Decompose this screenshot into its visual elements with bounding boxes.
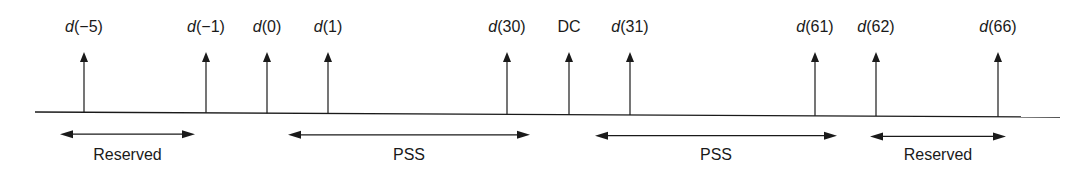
symbol-d: d — [488, 18, 497, 35]
reserved-span-label: Reserved — [93, 146, 161, 164]
subcarrier-index: (62) — [866, 18, 894, 35]
span-double-arrow — [288, 131, 530, 139]
subcarrier-arrow — [994, 52, 1002, 117]
span-double-arrow — [870, 132, 1006, 140]
arrowhead-icon — [811, 52, 819, 62]
subcarrier-arrow — [80, 52, 88, 112]
arrowhead-icon — [994, 52, 1002, 62]
span-double-arrow — [595, 132, 837, 140]
dc-subcarrier-arrow — [565, 52, 573, 115]
subcarrier-arrow — [324, 52, 332, 113]
subcarrier-index: (66) — [988, 18, 1016, 35]
subcarrier-arrow — [626, 52, 634, 115]
subcarrier-label: d(61) — [796, 18, 833, 36]
symbol-d: d — [253, 18, 262, 35]
subcarrier-label: d(30) — [488, 18, 525, 36]
pss-span-label: PSS — [393, 146, 425, 164]
subcarrier-index: (61) — [805, 18, 833, 35]
arrowhead-icon — [872, 52, 880, 62]
symbol-d: d — [796, 18, 805, 35]
symbol-d: d — [611, 18, 620, 35]
subcarrier-arrow — [202, 52, 210, 113]
arrowhead-icon — [626, 52, 634, 62]
subcarrier-label: d(−5) — [65, 18, 103, 36]
subcarrier-index: (1) — [323, 18, 343, 35]
subcarrier-index: (31) — [620, 18, 648, 35]
arrowhead-icon — [202, 52, 210, 62]
arrowhead-icon — [565, 52, 573, 62]
subcarrier-index: DC — [557, 18, 580, 35]
arrowhead-icon — [80, 52, 88, 62]
arrowhead-icon — [263, 52, 271, 62]
frequency-axis — [35, 112, 1060, 117]
arrowhead-icon — [503, 52, 511, 62]
subcarrier-arrow — [811, 52, 819, 116]
subcarrier-label: d(−1) — [187, 18, 225, 36]
subcarrier-arrow — [872, 52, 880, 116]
subcarrier-label: d(62) — [857, 18, 894, 36]
span-double-arrow — [60, 130, 195, 138]
subcarrier-label: d(66) — [979, 18, 1016, 36]
subcarrier-label: d(0) — [253, 18, 281, 36]
subcarrier-label: d(1) — [314, 18, 342, 36]
subcarrier-index: (−1) — [196, 18, 225, 35]
dc-label: DC — [557, 18, 580, 36]
symbol-d: d — [314, 18, 323, 35]
pss-span-label: PSS — [700, 146, 732, 164]
symbol-d: d — [857, 18, 866, 35]
symbol-d: d — [979, 18, 988, 35]
arrowhead-icon — [324, 52, 332, 62]
subcarrier-index: (−5) — [74, 18, 103, 35]
subcarrier-label: d(31) — [611, 18, 648, 36]
subcarrier-index: (0) — [262, 18, 282, 35]
reserved-span-label: Reserved — [904, 146, 972, 164]
subcarrier-arrow — [263, 52, 271, 113]
symbol-d: d — [65, 18, 74, 35]
subcarrier-arrow — [503, 52, 511, 114]
symbol-d: d — [187, 18, 196, 35]
subcarrier-index: (30) — [497, 18, 525, 35]
